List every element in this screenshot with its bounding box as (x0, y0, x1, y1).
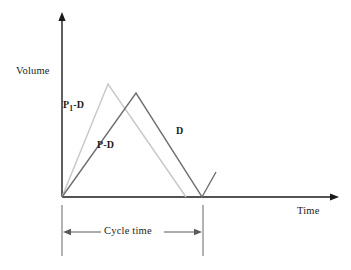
cycle-bracket-left-arrowhead (63, 229, 71, 235)
y-axis-label: Volume (16, 66, 50, 77)
diagram-canvas: Volume Time P1-D P-D D Cycle time (0, 0, 351, 270)
cycle-time-label: Cycle time (104, 226, 152, 237)
curve-p-d-path (62, 93, 216, 197)
y-axis-arrowhead (58, 12, 65, 21)
axes-group (58, 12, 339, 201)
curve-p-d (62, 93, 216, 197)
curve-label-p1-tail: -D (73, 99, 84, 110)
x-axis-label: Time (297, 206, 320, 217)
curve-label-p-minus-d: P-D (97, 140, 114, 150)
x-axis-arrowhead (330, 193, 339, 200)
curve-label-p1-minus-d: P1-D (63, 100, 84, 110)
cycle-bracket-right-arrowhead (194, 229, 202, 235)
curve-label-d: D (176, 126, 183, 136)
